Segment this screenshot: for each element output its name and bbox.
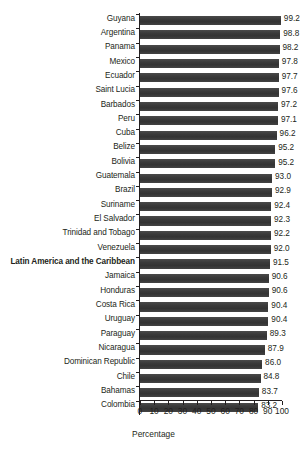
bar-row: Nicaragua87.9 bbox=[0, 343, 307, 357]
bar-fill bbox=[140, 231, 271, 240]
category-tick bbox=[136, 28, 140, 29]
category-tick bbox=[136, 100, 140, 101]
bar-fill bbox=[140, 45, 280, 54]
category-tick bbox=[136, 14, 140, 15]
value-tick bbox=[168, 401, 169, 405]
bar bbox=[140, 360, 262, 369]
bar-row: Venezuela92.0 bbox=[0, 243, 307, 257]
bar-row: Costa Rica90.4 bbox=[0, 300, 307, 314]
category-tick bbox=[136, 315, 140, 316]
bar bbox=[140, 274, 269, 283]
category-label: Latin America and the Caribbean bbox=[0, 257, 135, 267]
category-label: Colombia bbox=[0, 400, 135, 410]
value-tick bbox=[239, 401, 240, 405]
bar-value-label: 92.3 bbox=[274, 215, 290, 225]
bar bbox=[140, 259, 270, 268]
bar-value-label: 93.0 bbox=[275, 172, 291, 182]
bar-fill bbox=[140, 274, 269, 283]
bar bbox=[140, 73, 279, 82]
bar bbox=[140, 102, 278, 111]
bar-value-label: 97.6 bbox=[282, 86, 298, 96]
category-tick bbox=[136, 186, 140, 187]
bar-row: Paraguay89.3 bbox=[0, 329, 307, 343]
category-tick bbox=[136, 143, 140, 144]
category-label: Suriname bbox=[0, 200, 135, 210]
bar-fill bbox=[140, 331, 267, 340]
bar-row: Belize95.2 bbox=[0, 142, 307, 156]
bar bbox=[140, 174, 272, 183]
bar bbox=[140, 288, 269, 297]
bar-value-label: 97.8 bbox=[282, 57, 298, 67]
bar-value-label: 92.4 bbox=[274, 201, 290, 211]
bar-row: Guyana99.2 bbox=[0, 14, 307, 28]
bar bbox=[140, 45, 280, 54]
bar-row: Chile84.8 bbox=[0, 372, 307, 386]
category-label: Nicaragua bbox=[0, 343, 135, 353]
category-tick bbox=[136, 343, 140, 344]
category-label: Paraguay bbox=[0, 329, 135, 339]
bar-fill bbox=[140, 245, 271, 254]
bar bbox=[140, 374, 261, 383]
bar-row: Latin America and the Caribbean91.5 bbox=[0, 257, 307, 271]
bar-value-label: 97.1 bbox=[281, 115, 297, 125]
category-label: Bolivia bbox=[0, 157, 135, 167]
bar-row: Saint Lucia97.6 bbox=[0, 85, 307, 99]
bar-value-label: 97.2 bbox=[281, 100, 297, 110]
bar-fill bbox=[140, 174, 272, 183]
category-label: Panama bbox=[0, 42, 135, 52]
bar-row: Bahamas83.7 bbox=[0, 386, 307, 400]
bar bbox=[140, 231, 271, 240]
bar-fill bbox=[140, 16, 281, 25]
bar bbox=[140, 331, 267, 340]
bar-row: Peru97.1 bbox=[0, 114, 307, 128]
bar-chart: Guyana99.2Argentina98.8Panama98.2Mexico9… bbox=[0, 0, 307, 449]
bar-fill bbox=[140, 59, 279, 68]
bar-fill bbox=[140, 145, 275, 154]
bar-value-label: 96.2 bbox=[280, 129, 296, 139]
bar bbox=[140, 88, 279, 97]
category-label: Argentina bbox=[0, 28, 135, 38]
category-tick bbox=[136, 358, 140, 359]
x-axis-title: Percentage bbox=[0, 429, 307, 439]
bar-value-label: 84.8 bbox=[263, 372, 279, 382]
category-tick bbox=[136, 57, 140, 58]
bar-fill bbox=[140, 360, 262, 369]
category-label: El Salvador bbox=[0, 214, 135, 224]
bar-value-label: 95.2 bbox=[278, 158, 294, 168]
bar-row: Brazil92.9 bbox=[0, 185, 307, 199]
bar-value-label: 97.7 bbox=[282, 72, 298, 82]
bar-value-label: 86.0 bbox=[265, 358, 281, 368]
bar-row: Guatemala93.0 bbox=[0, 171, 307, 185]
category-tick bbox=[136, 329, 140, 330]
category-tick bbox=[136, 172, 140, 173]
bar-fill bbox=[140, 102, 278, 111]
value-tick bbox=[225, 401, 226, 405]
bar bbox=[140, 131, 277, 140]
category-label: Peru bbox=[0, 114, 135, 124]
category-tick bbox=[136, 372, 140, 373]
bar-value-label: 87.9 bbox=[268, 344, 284, 354]
category-tick bbox=[136, 86, 140, 87]
category-label: Venezuela bbox=[0, 243, 135, 253]
bar bbox=[140, 317, 268, 326]
category-tick bbox=[136, 257, 140, 258]
bar-row: Panama98.2 bbox=[0, 42, 307, 56]
category-tick bbox=[136, 286, 140, 287]
bar-value-label: 99.2 bbox=[284, 14, 300, 24]
bar bbox=[140, 245, 271, 254]
category-tick bbox=[136, 243, 140, 244]
category-label: Guatemala bbox=[0, 171, 135, 181]
value-tick bbox=[154, 401, 155, 405]
bar-fill bbox=[140, 259, 270, 268]
bar bbox=[140, 216, 271, 225]
category-label: Uruguay bbox=[0, 314, 135, 324]
category-label: Honduras bbox=[0, 286, 135, 296]
bar-row: Honduras90.6 bbox=[0, 286, 307, 300]
bar-fill bbox=[140, 345, 265, 354]
bar bbox=[140, 159, 275, 168]
value-tick bbox=[254, 401, 255, 405]
bar-value-label: 91.5 bbox=[273, 258, 289, 268]
bar bbox=[140, 16, 281, 25]
category-label: Dominican Republic bbox=[0, 357, 135, 367]
category-tick bbox=[136, 71, 140, 72]
